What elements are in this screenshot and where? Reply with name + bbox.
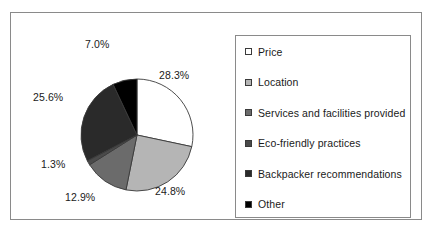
slice-label-eco: 1.3% (41, 158, 65, 170)
legend-item-label: Backpacker recommendations (258, 168, 402, 180)
legend-item[interactable]: Services and facilities provided (245, 106, 406, 119)
legend-swatch-icon (245, 201, 252, 208)
slice-label-price: 28.3% (159, 69, 189, 81)
legend-swatch-icon (245, 48, 252, 55)
pie-svg (29, 33, 225, 223)
legend-item-label: Price (258, 46, 282, 58)
legend-item-label: Services and facilities provided (258, 107, 405, 119)
legend-item-label: Other (258, 198, 285, 210)
legend-swatch-icon (245, 140, 252, 147)
legend-item-label: Location (258, 76, 299, 88)
legend-swatch-icon (245, 109, 252, 116)
legend-item[interactable]: Backpacker recommendations (245, 167, 406, 180)
slice-label-other: 7.0% (85, 38, 109, 50)
legend-swatch-icon (245, 170, 252, 177)
slice-label-backpacker: 25.6% (33, 91, 63, 103)
legend-swatch-icon (245, 79, 252, 86)
legend-item[interactable]: Location (245, 76, 406, 89)
legend-box: PriceLocationServices and facilities pro… (235, 35, 411, 218)
legend-item[interactable]: Other (245, 198, 406, 211)
legend-item[interactable]: Price (245, 45, 406, 58)
pie-slices (81, 79, 193, 191)
legend-item[interactable]: Eco-friendly practices (245, 137, 406, 150)
pie-chart-figure: 28.3% 24.8% 12.9% 1.3% 25.6% 7.0% PriceL… (0, 0, 434, 234)
legend-item-label: Eco-friendly practices (258, 137, 361, 149)
slice-label-location: 24.8% (155, 185, 185, 197)
slice-label-services: 12.9% (65, 191, 95, 203)
legend-list: PriceLocationServices and facilities pro… (245, 45, 406, 211)
chart-frame: 28.3% 24.8% 12.9% 1.3% 25.6% 7.0% PriceL… (10, 12, 422, 220)
pie-area: 28.3% 24.8% 12.9% 1.3% 25.6% 7.0% (29, 33, 225, 223)
